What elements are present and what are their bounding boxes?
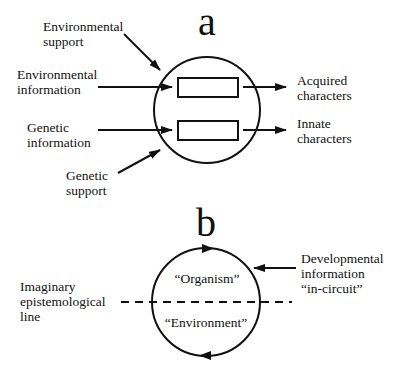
genetic-information-label: Genetic information — [27, 120, 91, 150]
organism-circle-a — [154, 57, 260, 163]
imaginary-epistemological-line-label: Imaginary epistemological line — [20, 279, 105, 324]
cycle-arrowhead-top — [202, 244, 214, 253]
organism-region-label: “Organism” — [166, 271, 248, 286]
environmental-support-label: Environmental support — [43, 19, 123, 49]
acquired-characters-label: Acquired characters — [297, 73, 352, 103]
genetic-support-label: Genetic support — [66, 168, 108, 198]
innate-characters-label: Innate characters — [297, 116, 352, 146]
environmental-information-label: Environmental information — [17, 67, 97, 97]
environmental-box — [178, 78, 238, 97]
panel-b-graphic — [121, 244, 296, 360]
genetic-box — [178, 121, 238, 140]
panel-a-graphic — [98, 34, 286, 173]
genetic-support-arrow — [118, 150, 160, 173]
panel-a-letter: a — [198, 2, 216, 42]
environmental-support-arrow — [124, 34, 160, 70]
developmental-information-label: Developmental information “in-circuit” — [301, 251, 383, 296]
cycle-arrowhead-bottom — [199, 351, 211, 360]
environment-region-label: “Environment” — [156, 315, 256, 330]
panel-b-letter: b — [196, 203, 216, 243]
